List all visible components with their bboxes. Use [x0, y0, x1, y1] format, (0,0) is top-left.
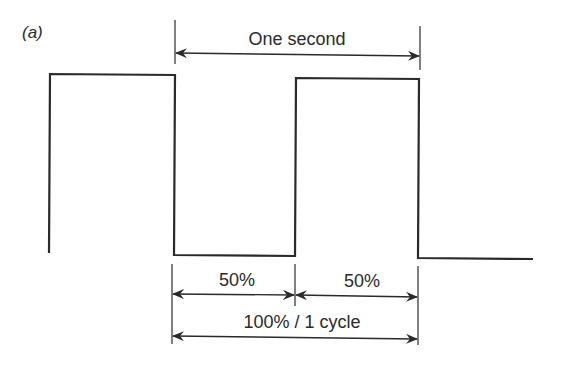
- period-arrow: [176, 53, 419, 56]
- high-duty-label: 50%: [219, 270, 255, 291]
- low-duty-label: 50%: [344, 271, 380, 292]
- period-label: One second: [248, 29, 345, 50]
- low-duty-arrow: [296, 295, 417, 297]
- square-wave: [49, 74, 533, 259]
- full-cycle-arrow: [173, 336, 417, 339]
- full-cycle-label: 100% / 1 cycle: [243, 312, 360, 333]
- high-duty-arrow: [173, 294, 294, 295]
